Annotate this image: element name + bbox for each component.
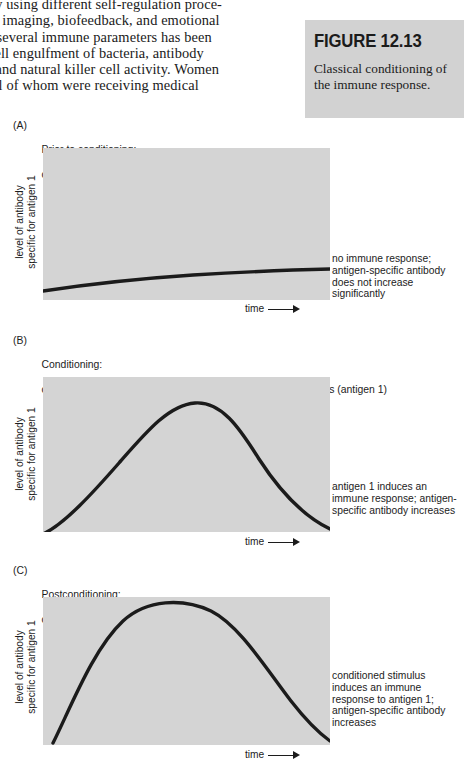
figure-number: FIGURE 12.13 xyxy=(314,30,422,52)
x-axis-text: time xyxy=(245,749,264,760)
panel-c-curve-svg xyxy=(43,597,330,745)
y-axis-line-2: specific for antigen 1 xyxy=(26,407,37,500)
body-text-line: by using different self-regulation proce… xyxy=(0,0,288,12)
panel-b-curve-svg xyxy=(43,377,330,532)
arrow-right-icon xyxy=(268,305,300,314)
body-text-line: f several immune parameters has been xyxy=(0,29,288,45)
x-axis-text: time xyxy=(245,536,264,547)
panel-b-tag: (B) xyxy=(13,335,27,347)
arrow-right-icon xyxy=(268,538,300,547)
body-text-column: by using different self-regulation proce… xyxy=(0,0,288,94)
panel-a-curve-svg xyxy=(43,148,330,300)
panel-a-curve xyxy=(43,269,330,291)
panel-c-tag: (C) xyxy=(13,565,27,577)
panel-b-note: antigen 1 induces an immune response; an… xyxy=(332,481,460,516)
panel-a-y-axis-label: level of antibody specific for antigen 1 xyxy=(14,148,37,296)
panel-c-y-axis-label: level of antibody specific for antigen 1 xyxy=(14,593,37,741)
body-text-line: all of whom were receiving medical xyxy=(0,77,288,93)
panel-a-x-axis-label: time xyxy=(245,303,300,314)
panel-a-tag: (A) xyxy=(13,120,27,132)
y-axis-line-2: specific for antigen 1 xyxy=(26,175,37,268)
body-text-line: cell engulfment of bacteria, antibody xyxy=(0,45,288,61)
panel-c-note: conditioned stimulus induces an immune r… xyxy=(332,670,460,729)
body-text-line: al imaging, biofeedback, and emotional xyxy=(0,12,288,28)
panel-b-y-axis-label: level of antibody specific for antigen 1 xyxy=(14,380,37,528)
y-axis-line-1: level of antibody xyxy=(14,185,25,259)
figure-caption-text: Classical conditioning of the immune res… xyxy=(314,61,460,93)
panel-b-curve xyxy=(45,403,330,532)
y-axis-line-2: specific for antigen 1 xyxy=(26,620,37,713)
arrow-right-icon xyxy=(268,751,300,760)
body-text-line: , and natural killer cell activity. Wome… xyxy=(0,61,288,77)
panel-c-curve xyxy=(53,603,330,743)
panel-a-plot-area xyxy=(43,148,330,300)
panel-c-plot-area xyxy=(43,597,330,745)
panel-c-x-axis-label: time xyxy=(245,749,300,760)
y-axis-line-1: level of antibody xyxy=(14,630,25,704)
panel-b-title: Conditioning: xyxy=(42,359,103,370)
panel-b-x-axis-label: time xyxy=(245,536,300,547)
panel-b-plot-area xyxy=(43,377,330,532)
figure-caption-box: FIGURE 12.13 Classical conditioning of t… xyxy=(305,20,464,118)
panel-a-note: no immune response; antigen-specific ant… xyxy=(332,253,460,300)
x-axis-text: time xyxy=(245,303,264,314)
y-axis-line-1: level of antibody xyxy=(14,417,25,491)
